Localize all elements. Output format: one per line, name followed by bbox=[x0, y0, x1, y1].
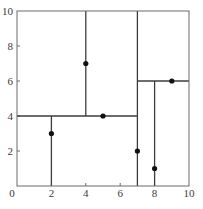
y-axis-labels: 246810 bbox=[2, 5, 14, 157]
kd-tree-diagram: 0246810 246810 bbox=[0, 0, 203, 209]
y-tick-label: 8 bbox=[8, 40, 14, 52]
x-tick-label: 6 bbox=[117, 187, 123, 199]
y-tick-label: 4 bbox=[8, 110, 14, 122]
y-tick-label: 6 bbox=[8, 75, 14, 87]
x-tick-label: 8 bbox=[152, 187, 158, 199]
data-point bbox=[135, 148, 140, 153]
x-tick-label: 2 bbox=[49, 187, 55, 199]
y-tick-label: 2 bbox=[8, 145, 14, 157]
data-point bbox=[169, 78, 174, 83]
data-point bbox=[100, 113, 105, 118]
y-tick-label: 10 bbox=[2, 5, 14, 17]
data-point bbox=[49, 131, 54, 136]
plot-frame bbox=[17, 11, 189, 186]
x-tick-label: 0 bbox=[9, 187, 15, 199]
x-tick-label: 4 bbox=[83, 187, 89, 199]
partition-lines bbox=[17, 11, 189, 186]
x-axis-labels: 0246810 bbox=[9, 187, 195, 199]
data-point bbox=[152, 166, 157, 171]
x-tick-label: 10 bbox=[184, 187, 196, 199]
data-point bbox=[83, 61, 88, 66]
